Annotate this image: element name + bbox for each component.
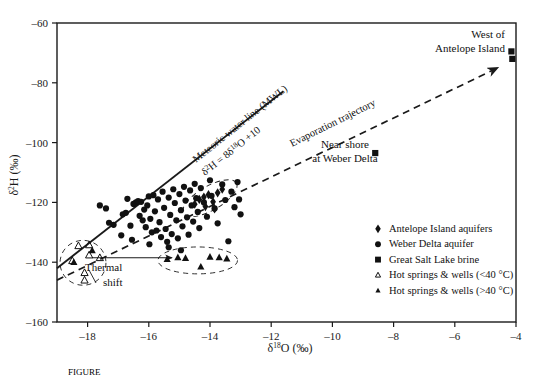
marker-circle	[179, 223, 185, 229]
marker-circle	[103, 205, 109, 211]
thermal-shift-label-line2: shift	[103, 276, 123, 288]
marker-circle	[176, 191, 182, 197]
marker-circle	[196, 225, 202, 231]
legend-item-label: Antelope Island aquifers	[389, 223, 492, 234]
marker-square	[375, 257, 381, 263]
x-axis-ticks: –18–16–14–12–10–8–6–4	[78, 322, 522, 342]
marker-circle	[152, 208, 158, 214]
x-tick-label: –8	[387, 330, 400, 342]
marker-circle	[175, 235, 181, 241]
marker-square	[509, 56, 515, 62]
marker-circle	[215, 220, 221, 226]
marker-circle	[166, 244, 172, 250]
y-tick-label: –80	[31, 77, 49, 89]
isotope-scatter-plot: –18–16–14–12–10–8–6–4 –60–80–100–120–140…	[0, 0, 536, 377]
x-tick-label: –16	[140, 330, 158, 342]
marker-circle	[207, 177, 213, 183]
marker-circle	[146, 241, 152, 247]
marker-circle	[167, 212, 173, 218]
marker-circle	[228, 189, 234, 195]
marker-circle	[150, 192, 156, 198]
marker-circle	[195, 209, 201, 215]
marker-circle	[182, 198, 188, 204]
marker-circle	[187, 187, 193, 193]
near-shore-label-line2: at Weber Delta	[312, 152, 378, 164]
marker-circle	[181, 184, 187, 190]
marker-circle	[129, 237, 135, 243]
figure-caption: FIGURE	[68, 367, 488, 377]
marker-circle	[222, 197, 228, 203]
marker-circle	[185, 232, 191, 238]
marker-circle	[153, 227, 159, 233]
marker-circle	[144, 202, 150, 208]
marker-circle	[140, 217, 146, 223]
marker-circle	[106, 220, 112, 226]
legend-item-label: Hot springs & wells (>40 °C)	[389, 285, 514, 297]
x-tick-label: –10	[323, 330, 341, 342]
x-axis-title: δ18O (‰)	[268, 341, 313, 355]
marker-circle	[234, 179, 240, 185]
marker-circle	[163, 226, 169, 232]
marker-circle	[159, 189, 165, 195]
figure-container: –18–16–14–12–10–8–6–4 –60–80–100–120–140…	[0, 0, 536, 377]
y-tick-label: –60	[31, 17, 49, 29]
marker-circle	[127, 223, 133, 229]
marker-circle	[170, 186, 176, 192]
y-axis-ticks: –60–80–100–120–140–160	[25, 17, 57, 328]
marker-circle	[158, 234, 164, 240]
marker-circle	[204, 214, 210, 220]
x-tick-label: –18	[78, 330, 96, 342]
marker-circle	[236, 196, 242, 202]
y-axis-title: δ2H (‰)	[7, 154, 21, 195]
marker-circle	[166, 195, 172, 201]
marker-circle	[192, 181, 198, 187]
marker-circle	[238, 211, 244, 217]
y-tick-label: –140	[25, 256, 49, 268]
thermal-shift-label-line1: Thermal	[85, 261, 122, 273]
marker-circle	[172, 200, 178, 206]
marker-circle	[178, 247, 184, 253]
x-tick-label: –14	[201, 330, 219, 342]
marker-circle	[190, 218, 196, 224]
marker-circle	[97, 202, 103, 208]
marker-circle	[231, 204, 237, 210]
marker-circle	[161, 205, 167, 211]
x-tick-label: –6	[448, 330, 461, 342]
marker-circle	[123, 210, 129, 216]
marker-circle	[225, 238, 231, 244]
marker-circle	[169, 231, 175, 237]
marker-circle	[155, 196, 161, 202]
marker-circle	[138, 199, 144, 205]
near-shore-label-line1: Near shore	[321, 138, 369, 150]
marker-circle	[143, 224, 149, 230]
marker-circle	[164, 239, 170, 245]
y-tick-label: –100	[25, 137, 49, 149]
marker-square	[508, 48, 514, 54]
marker-circle	[118, 232, 124, 238]
y-tick-label: –120	[25, 196, 49, 208]
x-tick-label: –4	[510, 330, 523, 342]
marker-circle	[156, 219, 162, 225]
legend-item-label: Great Salt Lake brine	[389, 254, 479, 265]
marker-circle	[178, 207, 184, 213]
legend-item-label: Weber Delta aquifer	[389, 238, 474, 249]
west-antelope-label-line2: Antelope Island	[435, 42, 505, 54]
marker-circle	[375, 241, 381, 247]
marker-circle	[124, 196, 130, 202]
marker-circle	[198, 185, 204, 191]
west-antelope-label-line1: West of	[471, 28, 505, 40]
marker-circle	[147, 216, 153, 222]
marker-circle	[173, 217, 179, 223]
legend-item-label: Hot springs & wells (<40 °C)	[389, 269, 514, 281]
y-tick-label: –160	[25, 316, 49, 328]
marker-circle	[184, 214, 190, 220]
